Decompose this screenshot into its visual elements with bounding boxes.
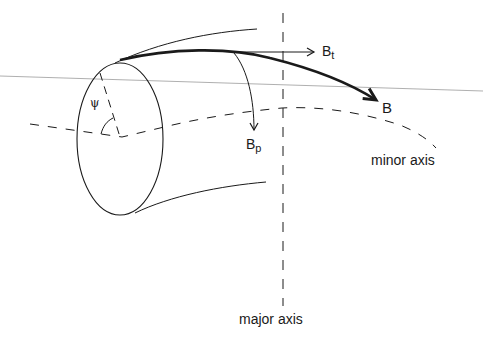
torus-lower-outline — [135, 182, 266, 213]
minor-axis-label: minor axis — [371, 153, 435, 167]
toroidal-field-subscript: t — [331, 49, 334, 61]
cross-section-ellipse — [77, 63, 163, 215]
poloidal-field-subscript: p — [255, 142, 261, 154]
poloidal-field-symbol: B — [246, 136, 255, 152]
minor-axis-text: minor axis — [371, 152, 435, 168]
poloidal-field-arrow — [234, 53, 254, 130]
psi-angle-label: ψ — [90, 97, 99, 109]
total-field-symbol: B — [382, 99, 392, 116]
torus-upper-outline — [115, 29, 257, 63]
major-axis-label: major axis — [239, 312, 303, 326]
total-field-label: B — [382, 100, 392, 115]
total-field-arrow — [120, 50, 376, 100]
horizontal-rule-line — [0, 76, 483, 91]
toroidal-field-label: Bt — [322, 44, 334, 61]
major-axis-text: major axis — [239, 311, 303, 327]
toroidal-field-symbol: B — [322, 43, 331, 59]
psi-angle-arc — [101, 118, 113, 134]
torus-field-diagram — [0, 0, 483, 338]
minor-axis-line — [30, 108, 436, 148]
psi-symbol: ψ — [90, 96, 99, 110]
poloidal-field-label: Bp — [246, 137, 261, 154]
